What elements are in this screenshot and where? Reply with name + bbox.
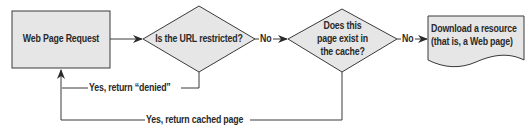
edge-label-restricted-yes: Yes, return “denied”	[89, 82, 171, 94]
web-page-request-label: Web Page Request	[18, 33, 104, 45]
download-resource-label-line-1: Download a resource	[431, 23, 517, 35]
edge-cache-yes-return	[61, 70, 145, 120]
page-in-cache-label-line-3: the cache?	[295, 46, 391, 58]
edge-label-cache-no: No	[402, 33, 413, 45]
page-in-cache-label-line-2: page exist in	[295, 33, 391, 45]
flowchart-canvas	[0, 0, 528, 131]
url-restricted-label: Is the URL restricted?	[150, 33, 249, 45]
edge-restricted-yes-path	[181, 72, 199, 88]
edge-label-cache-yes: Yes, return cached page	[146, 114, 243, 126]
edge-label-restricted-no: No	[260, 33, 271, 45]
download-resource-label-line-2: (that is, a Web page)	[431, 36, 513, 48]
page-in-cache-label-line-1: Does this	[295, 20, 391, 32]
edge-cache-yes-path	[250, 72, 342, 120]
